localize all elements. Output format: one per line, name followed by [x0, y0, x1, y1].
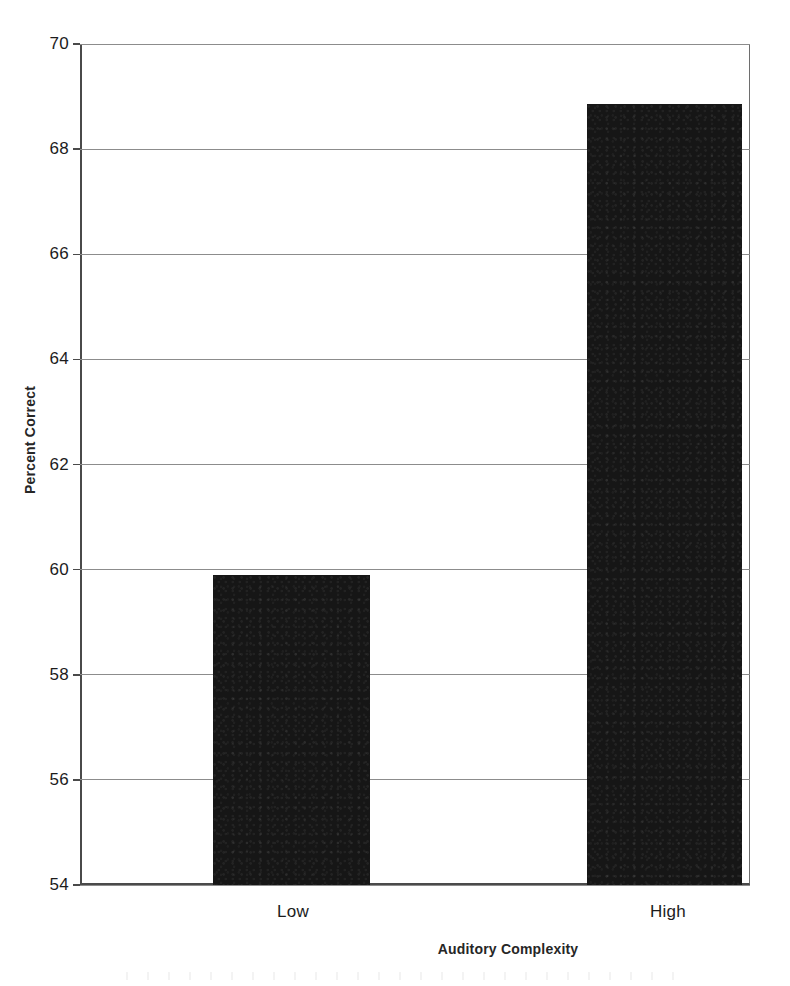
y-tick-mark	[73, 884, 80, 886]
gridline	[80, 44, 750, 45]
y-tick-label: 70	[49, 34, 69, 54]
y-tick-mark	[73, 148, 80, 150]
y-tick-label: 60	[49, 560, 69, 580]
y-tick-mark	[73, 254, 80, 256]
x-axis-title: Auditory Complexity	[438, 941, 579, 957]
y-tick-mark	[73, 359, 80, 361]
y-tick-label: 62	[49, 455, 69, 475]
y-tick-label: 56	[49, 770, 69, 790]
x-axis-title-wrap: Auditory Complexity	[0, 941, 790, 957]
y-tick-label: 54	[49, 875, 69, 895]
y-tick-mark	[73, 779, 80, 781]
plot-area: 545658606264666870	[80, 44, 750, 885]
bar-low	[213, 575, 370, 885]
bar-high	[587, 104, 742, 885]
y-tick-mark	[73, 464, 80, 466]
y-tick-mark	[73, 43, 80, 45]
x-tick-label-low: Low	[277, 902, 309, 922]
y-tick-label: 64	[49, 349, 69, 369]
x-tick-label-high: High	[650, 902, 686, 922]
y-tick-label: 58	[49, 665, 69, 685]
y-tick-label: 68	[49, 139, 69, 159]
y-axis-title: Percent Correct	[22, 340, 38, 540]
y-tick-mark	[73, 674, 80, 676]
scan-noise-artifact	[120, 972, 680, 980]
bar-chart-figure: Percent Correct 545658606264666870 Low H…	[0, 0, 790, 986]
y-tick-mark	[73, 569, 80, 571]
y-tick-label: 66	[49, 244, 69, 264]
